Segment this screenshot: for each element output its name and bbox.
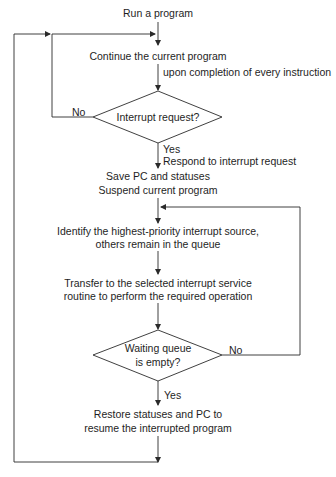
node-identify-line2: others remain in the queue [96, 238, 221, 251]
decision1-text: Interrupt request? [117, 111, 200, 124]
node-save-line1: Save PC and statuses [106, 170, 210, 183]
node-transfer-line1: Transfer to the selected interrupt servi… [64, 277, 252, 290]
decision2-text-line2: is empty? [136, 356, 181, 369]
node-continue: Continue the current program [89, 50, 226, 63]
node-save-line2: Suspend current program [98, 184, 217, 197]
node-transfer-line2: routine to perform the required operatio… [64, 290, 253, 303]
node-restore-line1: Restore statuses and PC to [94, 408, 222, 421]
decision2-no-label: No [229, 344, 242, 357]
node-start: Run a program [123, 7, 193, 20]
edge-label-continue-note: upon completion of every instruction [163, 66, 331, 79]
decision1-no-label: No [72, 106, 85, 119]
node-identify-line1: Identify the highest-priority interrupt … [57, 225, 259, 238]
node-restore-line2: resume the interrupted program [84, 422, 232, 435]
decision2-yes-label: Yes [164, 389, 181, 402]
decision2-text-line1: Waiting queue [125, 342, 192, 355]
edge-label-respond: Respond to interrupt request [163, 155, 296, 168]
